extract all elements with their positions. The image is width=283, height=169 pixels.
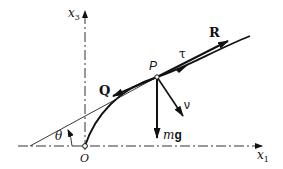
vector-nu	[157, 77, 183, 116]
point-P	[155, 75, 159, 79]
vector-R	[157, 41, 228, 77]
x1-axis-label: x1	[257, 148, 269, 164]
vector-Q	[113, 77, 157, 96]
vector-nu-label: ν	[184, 98, 190, 112]
tangent-line	[30, 77, 157, 146]
point-P-label: P	[149, 59, 157, 73]
vector-R-label: R	[209, 25, 220, 40]
vector-tau-label: τ	[179, 47, 186, 61]
origin-label: O	[80, 152, 89, 165]
vector-Q-label: Q	[99, 83, 110, 98]
angle-theta-label: θ	[55, 129, 63, 143]
x3-axis-label: x3	[68, 6, 80, 22]
origin-point	[83, 144, 88, 149]
angle-arc	[68, 130, 72, 146]
force-diagram: x3 x1 O P θ R τ Q mg ν	[0, 0, 283, 169]
vector-mg-label: mg	[163, 128, 182, 142]
